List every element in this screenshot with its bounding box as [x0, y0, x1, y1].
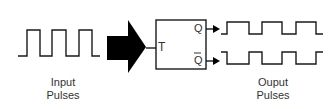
- block-arrow-icon: [107, 20, 146, 73]
- q-output-waveform: [221, 22, 323, 34]
- output-caption-line1: Ouput: [248, 76, 298, 89]
- qbar-output-label: Q: [194, 54, 203, 67]
- qbar-output-arrow-icon: [213, 57, 220, 65]
- input-caption: Input Pulses: [38, 76, 88, 102]
- input-caption-line2: Pulses: [38, 89, 88, 102]
- q-output-arrow-icon: [213, 25, 220, 33]
- output-caption: Ouput Pulses: [248, 76, 298, 102]
- input-pulse-waveform: [18, 30, 100, 56]
- qbar-output-waveform: [221, 52, 323, 64]
- output-caption-line2: Pulses: [248, 89, 298, 102]
- input-caption-line1: Input: [38, 76, 88, 89]
- q-output-label: Q: [194, 22, 203, 35]
- t-input-label: T: [158, 41, 165, 54]
